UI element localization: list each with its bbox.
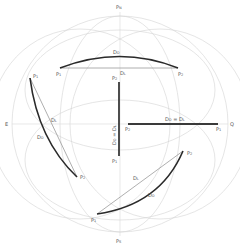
label-dl-top: DL xyxy=(120,70,126,76)
label-equator-q: Q xyxy=(230,121,234,127)
label-do-dl-meridian: DO = DL xyxy=(111,125,117,145)
label-do-top: DO xyxy=(113,49,120,55)
label-p2-bottom: P2 xyxy=(187,150,192,156)
label-dl-left: DL xyxy=(51,117,57,123)
label-p2-top: P2 xyxy=(178,71,183,77)
label-dl-bottom: DL xyxy=(133,175,139,181)
orthodrome-top xyxy=(60,57,178,69)
label-do-dl-equator: DO = DL xyxy=(165,116,185,122)
sphere-diagram: DO DL P1 P2 P2 P1 DO = DL DO = DL P2 P1 … xyxy=(0,0,240,246)
label-p1-left: P1 xyxy=(33,73,38,79)
label-p1-meridian: P1 xyxy=(112,158,117,164)
label-east: E xyxy=(5,121,8,127)
label-p1-top: P1 xyxy=(56,71,61,77)
label-p2-meridian: P2 xyxy=(112,75,117,81)
label-p2-equator: P2 xyxy=(125,126,130,132)
label-south-pole: PS xyxy=(116,238,122,244)
label-north-pole: PN xyxy=(116,4,122,10)
loxodrome-bottom xyxy=(97,151,183,214)
label-p1-equator: P1 xyxy=(216,126,221,132)
label-p2-left: P2 xyxy=(80,174,85,180)
label-do-left: DO xyxy=(37,134,44,140)
label-do-bottom: DO xyxy=(148,192,155,198)
